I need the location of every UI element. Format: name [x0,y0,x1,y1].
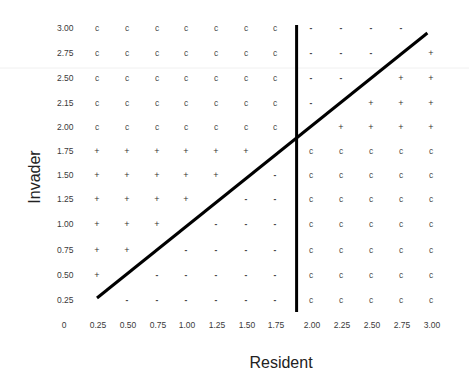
symbol-coexist-c: c [339,194,344,204]
symbol-coexist-c: c [309,194,314,204]
symbol-invade-plus: + [243,146,248,156]
x-tick-label: 2.00 [304,320,321,330]
symbol-coexist-c: c [369,146,374,156]
symbol-coexist-c: c [339,295,344,305]
symbol-coexist-c: c [155,98,160,108]
x-tick-label: 2.75 [394,320,411,330]
symbol-coexist-c: c [399,219,404,229]
symbol-invade-plus: + [428,122,433,132]
symbol-coexist-c: c [184,73,189,83]
symbol-invade-plus: + [398,98,403,108]
y-tick-label: 0.50 [57,270,74,280]
symbol-invade-plus: + [124,170,129,180]
symbol-coexist-c: c [155,122,160,132]
symbol-coexist-c: c [429,219,434,229]
symbol-fail-minus: - [126,295,129,305]
symbol-invade-plus: + [398,73,403,83]
symbol-fail-minus: - [215,270,218,280]
symbol-coexist-c: c [155,73,160,83]
symbol-invade-plus: + [154,219,159,229]
x-axis-label: Resident [249,354,313,371]
symbol-fail-minus: - [245,194,248,204]
symbol-coexist-c: c [273,98,278,108]
symbol-fail-minus: - [310,23,313,33]
symbol-fail-minus: - [156,295,159,305]
symbol-coexist-c: c [309,170,314,180]
symbol-coexist-c: c [125,23,130,33]
x-tick-label: 1.00 [179,320,196,330]
symbol-coexist-c: c [399,194,404,204]
symbol-coexist-c: c [273,23,278,33]
symbol-fail-minus: - [274,194,277,204]
symbol-fail-minus: - [340,48,343,58]
x-tick-label: 1.25 [209,320,226,330]
y-tick-label: 1.25 [57,194,74,204]
symbol-coexist-c: c [429,194,434,204]
symbol-fail-minus: - [245,219,248,229]
symbol-coexist-c: c [244,73,249,83]
symbol-coexist-c: c [399,146,404,156]
symbol-invade-plus: + [428,98,433,108]
x-axis-tick-labels: 00.250.500.751.001.251.501.752.002.252.5… [62,320,441,330]
symbol-coexist-c: c [95,48,100,58]
symbol-invade-plus: + [398,122,403,132]
symbol-coexist-c: c [273,122,278,132]
x-tick-label: 1.75 [268,320,285,330]
symbol-coexist-c: c [339,219,344,229]
symbol-fail-minus: - [274,170,277,180]
symbol-coexist-c: c [244,98,249,108]
symbol-coexist-c: c [125,98,130,108]
symbol-coexist-c: c [309,295,314,305]
symbol-fail-minus: - [185,295,188,305]
symbol-coexist-c: c [125,48,130,58]
symbol-coexist-c: c [155,48,160,58]
symbol-coexist-c: c [369,219,374,229]
y-tick-label: 2.15 [57,98,74,108]
symbol-coexist-c: c [214,73,219,83]
symbol-coexist-c: c [244,48,249,58]
symbol-coexist-c: c [184,122,189,132]
symbol-coexist-c: c [214,98,219,108]
symbol-coexist-c: c [273,73,278,83]
symbol-coexist-c: c [339,270,344,280]
symbol-coexist-c: c [309,219,314,229]
symbol-invade-plus: + [94,245,99,255]
symbol-fail-minus: - [310,48,313,58]
symbol-invade-plus: + [213,146,218,156]
symbol-coexist-c: c [184,98,189,108]
symbol-coexist-c: c [214,48,219,58]
symbol-fail-minus: - [215,245,218,255]
symbol-invade-plus: + [183,170,188,180]
symbol-fail-minus: - [370,23,373,33]
symbol-coexist-c: c [309,270,314,280]
y-tick-label: 0.75 [57,245,74,255]
symbol-invade-plus: + [428,48,433,58]
symbol-fail-minus: - [310,73,313,83]
symbol-coexist-c: c [339,170,344,180]
symbol-coexist-c: c [309,146,314,156]
symbol-fail-minus: - [245,295,248,305]
symbol-invade-plus: + [368,122,373,132]
symbol-coexist-c: c [125,122,130,132]
symbol-coexist-c: c [429,170,434,180]
y-tick-label: 0.25 [57,295,74,305]
symbol-fail-minus: - [245,245,248,255]
y-tick-label: 1.50 [57,170,74,180]
symbol-invade-plus: + [183,146,188,156]
x-tick-label: 3.00 [424,320,441,330]
symbol-coexist-c: c [95,73,100,83]
symbol-coexist-c: c [399,170,404,180]
pairwise-invasibility-plot: 3.002.752.502.152.001.751.501.251.000.75… [0,0,469,387]
symbol-coexist-c: c [184,48,189,58]
symbol-invade-plus: + [154,170,159,180]
symbol-invade-plus: + [124,219,129,229]
symbol-coexist-c: c [95,122,100,132]
symbol-coexist-c: c [369,194,374,204]
symbol-invade-plus: + [338,122,343,132]
symbol-fail-minus: - [274,295,277,305]
symbol-coexist-c: c [155,23,160,33]
symbol-fail-minus: - [185,270,188,280]
symbol-fail-minus: - [185,245,188,255]
symbol-fail-minus: - [274,245,277,255]
y-tick-label: 1.75 [57,146,74,156]
